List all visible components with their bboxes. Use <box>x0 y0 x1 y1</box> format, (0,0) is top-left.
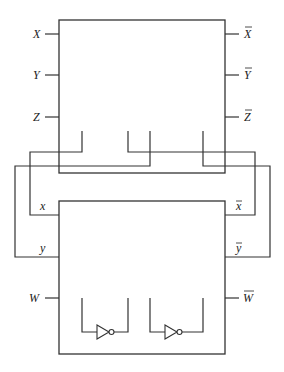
inverter-2-triangle-icon <box>165 325 177 339</box>
input-y-lower-label: y <box>39 241 46 255</box>
inverter-1 <box>82 298 128 339</box>
input-x-label: X <box>32 27 41 41</box>
inverter-1-bubble-icon <box>109 330 114 335</box>
inverter-2-bubble-icon <box>177 330 182 335</box>
input-z-label: Z <box>33 110 40 124</box>
output-y-bar-label: Y <box>244 68 252 82</box>
top-block-outline <box>59 20 225 173</box>
input-x-lower-label: x <box>39 199 46 213</box>
input-w-label: W <box>29 291 40 305</box>
inverter-1-input-wire <box>82 298 97 332</box>
feedback-wires <box>15 131 270 257</box>
bottom-block: x y W x y W <box>29 199 254 354</box>
input-y-label: Y <box>33 68 41 82</box>
bottom-block-outline <box>59 201 225 354</box>
inverter-1-output-wire <box>114 298 128 332</box>
circuit-diagram: X Y Z X Y Z x y W x y W <box>0 0 284 372</box>
inverter-2 <box>150 298 203 339</box>
output-z-bar-label: Z <box>244 110 251 124</box>
inverter-1-triangle-icon <box>97 325 109 339</box>
inverter-2-input-wire <box>150 298 165 332</box>
wire-to-y-bar <box>203 131 270 257</box>
top-block: X Y Z X Y Z <box>32 20 252 173</box>
inverter-2-output-wire <box>182 298 203 332</box>
output-w-bar-label: W <box>243 291 254 305</box>
output-x-bar-label: X <box>243 27 252 41</box>
